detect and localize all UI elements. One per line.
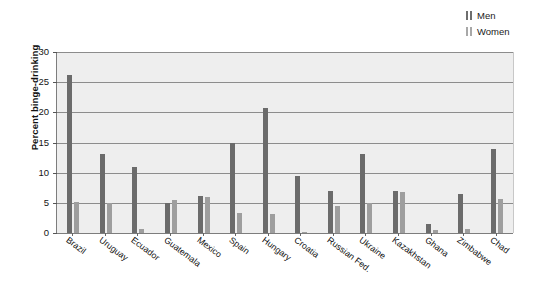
legend-label-women: Women	[477, 26, 510, 37]
y-tick-label: 30	[27, 46, 49, 57]
bar-men	[230, 143, 235, 234]
bar-women	[400, 192, 405, 233]
y-tick-label: 5	[27, 197, 49, 208]
bar-group	[252, 52, 285, 233]
bar-women	[465, 229, 470, 233]
bar-men	[100, 154, 105, 233]
legend-swatch-men-icon	[466, 11, 473, 20]
x-tick-label: Brazil	[65, 235, 89, 256]
bar-men	[360, 154, 365, 233]
x-label-cell: Guatemala	[154, 234, 187, 292]
legend-item-men: Men	[466, 8, 534, 22]
bar-men	[328, 191, 333, 233]
legend-label-men: Men	[477, 10, 495, 21]
plot-frame-right	[513, 52, 514, 233]
y-tick-label: 20	[27, 106, 49, 117]
x-label-cell: Ecuador	[121, 234, 154, 292]
y-axis-title: Percent binge-drinking	[29, 8, 40, 188]
chart-legend: Men Women	[466, 8, 534, 40]
bar-men	[458, 194, 463, 233]
bar-group	[481, 52, 514, 233]
bar-men	[198, 196, 203, 233]
bar-women	[335, 206, 340, 233]
bar-group	[350, 52, 383, 233]
bar-men	[426, 224, 431, 233]
legend-swatch-women-icon	[466, 27, 473, 36]
bar-group	[415, 52, 448, 233]
y-tick-label: 0	[27, 227, 49, 238]
x-tick-label: Spain	[228, 235, 252, 257]
x-label-cell: Mexico	[186, 234, 219, 292]
bar-group	[90, 52, 123, 233]
legend-item-women: Women	[466, 24, 534, 38]
bar-group	[155, 52, 188, 233]
x-label-cell: Zimbabwe	[447, 234, 480, 292]
x-label-cell: Hungary	[251, 234, 284, 292]
x-axis-labels: BrazilUruguayEcuadorGuatemalaMexicoSpain…	[56, 234, 512, 292]
bar-group	[187, 52, 220, 233]
bar-group	[448, 52, 481, 233]
bar-women	[237, 213, 242, 233]
x-label-cell: Ghana	[414, 234, 447, 292]
bar-men	[132, 167, 137, 233]
bar-women	[205, 197, 210, 233]
bar-men	[67, 75, 72, 233]
x-label-cell: Spain	[219, 234, 252, 292]
bar-women	[302, 232, 307, 233]
bar-group	[318, 52, 351, 233]
bar-women	[139, 229, 144, 233]
x-tick-label: Chad	[488, 235, 511, 256]
bar-group	[220, 52, 253, 233]
bar-women	[498, 199, 503, 233]
bar-group	[122, 52, 155, 233]
bar-group	[285, 52, 318, 233]
bar-men	[491, 149, 496, 233]
bar-group	[383, 52, 416, 233]
bar-men	[263, 108, 268, 233]
bar-group	[57, 52, 90, 233]
bar-women	[172, 200, 177, 233]
bar-men	[295, 176, 300, 233]
y-tick-label: 15	[27, 137, 49, 148]
x-label-cell: Ukraine	[349, 234, 382, 292]
bar-men	[393, 191, 398, 233]
plot-area: 051015202530	[56, 52, 513, 234]
x-label-cell: Kazakhstan	[382, 234, 415, 292]
bar-women	[367, 203, 372, 233]
x-label-cell: Croatia	[284, 234, 317, 292]
bar-women	[107, 203, 112, 233]
bar-chart-figure: Men Women Percent binge-drinking 0510152…	[0, 0, 536, 295]
bar-groups	[57, 52, 513, 233]
bar-women	[270, 214, 275, 233]
x-label-cell: Russian Fed.	[317, 234, 350, 292]
x-label-cell: Chad	[480, 234, 513, 292]
bar-men	[165, 203, 170, 233]
y-tick-label: 10	[27, 167, 49, 178]
y-tick-label: 25	[27, 76, 49, 87]
x-label-cell: Brazil	[56, 234, 89, 292]
bar-women	[74, 202, 79, 233]
bar-women	[433, 230, 438, 233]
x-label-cell: Uruguay	[89, 234, 122, 292]
